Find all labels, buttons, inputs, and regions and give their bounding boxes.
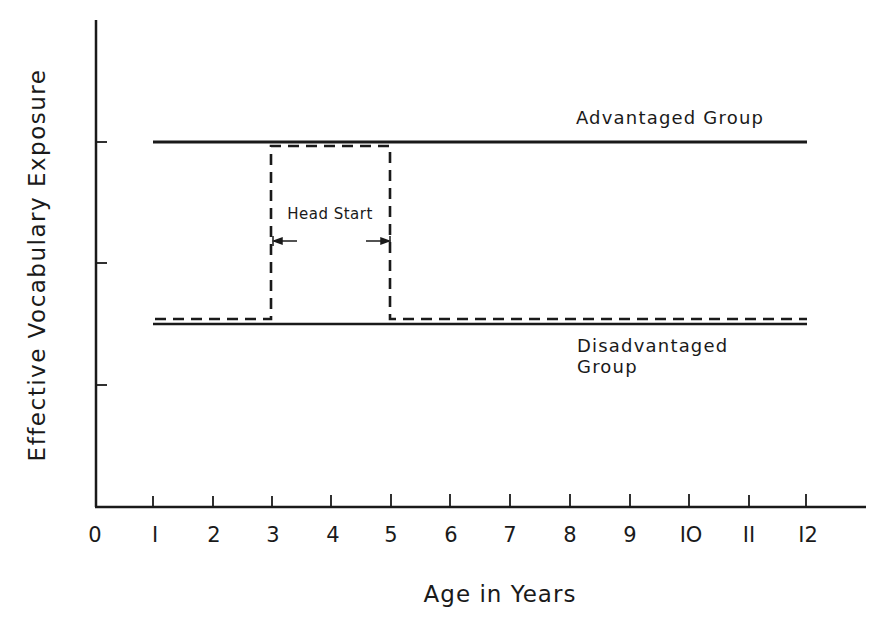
x-tick-label-1: I: [152, 523, 158, 547]
x-tick-label-0: 0: [88, 523, 101, 547]
disadvantaged-group-label: Disadvantaged Group: [577, 335, 779, 377]
x-tick-label-5: 5: [384, 523, 397, 547]
x-tick-label-11: II: [743, 523, 755, 547]
x-tick-label-3: 3: [266, 523, 279, 547]
y-ticks: [96, 142, 107, 385]
x-axis-label: Age in Years: [424, 581, 577, 607]
head-start-label: Head Start: [287, 205, 373, 223]
x-tick-label-12: I2: [798, 523, 818, 547]
x-tick-label-6: 6: [444, 523, 457, 547]
x-tick-label-9: 9: [623, 523, 636, 547]
x-tick-label-8: 8: [563, 523, 576, 547]
advantaged-group-label: Advantaged Group: [576, 107, 764, 128]
x-ticks: [153, 494, 806, 507]
x-tick-label-2: 2: [207, 523, 220, 547]
x-tick-label-4: 4: [326, 523, 339, 547]
head-start-dashed-line: [155, 146, 807, 319]
x-tick-label-7: 7: [503, 523, 516, 547]
head-start-arrows: [273, 236, 390, 246]
x-tick-label-10: IO: [680, 523, 703, 547]
y-axis-label: Effective Vocabulary Exposure: [24, 69, 50, 462]
